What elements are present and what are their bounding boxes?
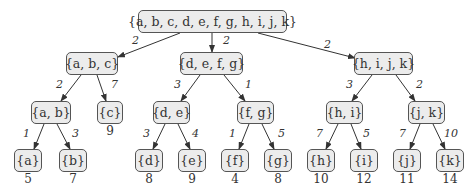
node-de: {d, e} xyxy=(153,101,190,124)
weight-abc-c: 7 xyxy=(111,78,118,91)
weight-ab-b: 3 xyxy=(72,127,79,140)
node-ab: {a, b} xyxy=(31,101,71,124)
weight-jk-j: 7 xyxy=(399,127,406,140)
weight-fg-f: 1 xyxy=(229,127,236,140)
node-defg: {d, e, f, g} xyxy=(180,52,243,75)
weight-root-abc: 2 xyxy=(132,34,139,47)
node-k: {k} xyxy=(436,149,464,172)
cost-j: 11 xyxy=(393,172,421,186)
edge-hi-h xyxy=(326,124,338,149)
node-b: {b} xyxy=(59,149,87,172)
edge-de-d xyxy=(153,124,165,149)
edge-ab-b xyxy=(57,124,70,149)
weight-hijk-jk: 2 xyxy=(416,78,423,91)
weight-ab-a: 1 xyxy=(23,127,30,140)
node-hijk: {h, i, j, k} xyxy=(354,52,413,75)
node-j: {j} xyxy=(393,149,421,172)
edge-hijk-hi xyxy=(352,75,372,101)
node-e: {e} xyxy=(178,149,206,172)
cost-h: 10 xyxy=(307,172,335,186)
cost-g: 8 xyxy=(264,172,292,186)
edge-hi-i xyxy=(351,124,361,149)
node-i: {i} xyxy=(350,149,378,172)
node-f: {f} xyxy=(221,149,249,172)
cost-b: 7 xyxy=(59,172,87,186)
weight-de-d: 3 xyxy=(143,127,150,140)
node-g: {g} xyxy=(264,149,292,172)
weight-root-defg: 2 xyxy=(223,34,230,47)
edge-defg-fg xyxy=(224,75,245,101)
weight-abc-ab: 2 xyxy=(56,78,63,91)
weight-de-e: 4 xyxy=(192,127,199,140)
edge-de-e xyxy=(178,124,190,149)
node-d: {d} xyxy=(135,149,163,172)
cost-k: 14 xyxy=(436,172,464,186)
weight-hi-h: 7 xyxy=(316,127,323,140)
edge-root-abc xyxy=(118,33,180,57)
node-jk: {j, k} xyxy=(408,101,445,124)
cost-c: 9 xyxy=(96,124,124,138)
edge-abc-ab xyxy=(61,75,81,101)
node-hi: {h, i} xyxy=(326,101,363,124)
edge-fg-f xyxy=(239,124,249,149)
cost-d: 8 xyxy=(135,172,163,186)
node-c: {c} xyxy=(97,101,123,124)
node-fg: {f, g} xyxy=(237,101,274,124)
edge-jk-j xyxy=(410,124,420,149)
edge-abc-c xyxy=(97,75,106,101)
weight-fg-g: 5 xyxy=(278,127,285,140)
cost-e: 9 xyxy=(178,172,206,186)
weight-root-hijk: 2 xyxy=(324,38,331,51)
cost-i: 12 xyxy=(350,172,378,186)
weight-defg-fg: 1 xyxy=(245,78,252,91)
node-root: {a, b, c, d, e, f, g, h, i, j, k} xyxy=(138,10,287,33)
node-abc: {a, b, c} xyxy=(66,52,118,75)
edge-ab-a xyxy=(34,124,44,149)
edge-hijk-jk xyxy=(396,75,415,101)
cost-f: 4 xyxy=(221,172,249,186)
weight-hi-i: 5 xyxy=(363,127,370,140)
weight-defg-de: 3 xyxy=(174,78,181,91)
edge-fg-g xyxy=(262,124,274,149)
edge-defg-de xyxy=(181,75,200,101)
edge-root-hijk xyxy=(258,33,355,58)
cost-a: 5 xyxy=(14,172,42,186)
node-h: {h} xyxy=(307,149,335,172)
weight-hijk-hi: 3 xyxy=(346,78,353,91)
node-a: {a} xyxy=(14,149,42,172)
weight-jk-k: 10 xyxy=(444,127,458,140)
